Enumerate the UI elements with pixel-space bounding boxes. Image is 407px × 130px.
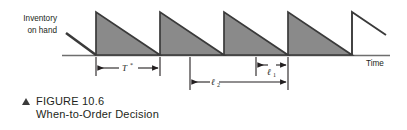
sawtooth-cycle-2 [160, 12, 224, 55]
dim-label-cycle-time: T [122, 63, 128, 73]
lead-in-depletion-line [66, 33, 96, 55]
triangle-marker-icon [22, 98, 30, 105]
caption-lines: FIGURE 10.6 When-to-Order Decision [36, 95, 159, 121]
inventory-sawtooth-chart: T * ℓ 1 ℓ 2 Inventory on hand Time [0, 0, 407, 96]
figure-container: T * ℓ 1 ℓ 2 Inventory on hand Time FIGUR… [0, 0, 407, 130]
x-axis-label: Time [366, 59, 384, 68]
dim-label-lead-time-2: ℓ [211, 77, 215, 87]
sawtooth-cycle-5-partial [352, 12, 386, 55]
dim-label-lead-time-1: ℓ [267, 67, 271, 77]
y-axis-label-line2: on hand [27, 26, 57, 35]
dim-superscript-cycle-time: * [130, 62, 133, 68]
y-axis-label-line1: Inventory [23, 14, 58, 23]
figure-caption-text: When-to-Order Decision [36, 108, 159, 121]
dim-subscript-lead-time-1: 1 [273, 72, 276, 78]
dim-subscript-lead-time-2: 2 [217, 82, 220, 88]
sawtooth-cycle-1 [96, 12, 160, 55]
figure-caption: FIGURE 10.6 When-to-Order Decision [22, 95, 159, 121]
sawtooth-cycle-3 [224, 12, 288, 55]
sawtooth-cycle-4 [288, 12, 352, 55]
figure-number-label: FIGURE 10.6 [36, 95, 159, 108]
